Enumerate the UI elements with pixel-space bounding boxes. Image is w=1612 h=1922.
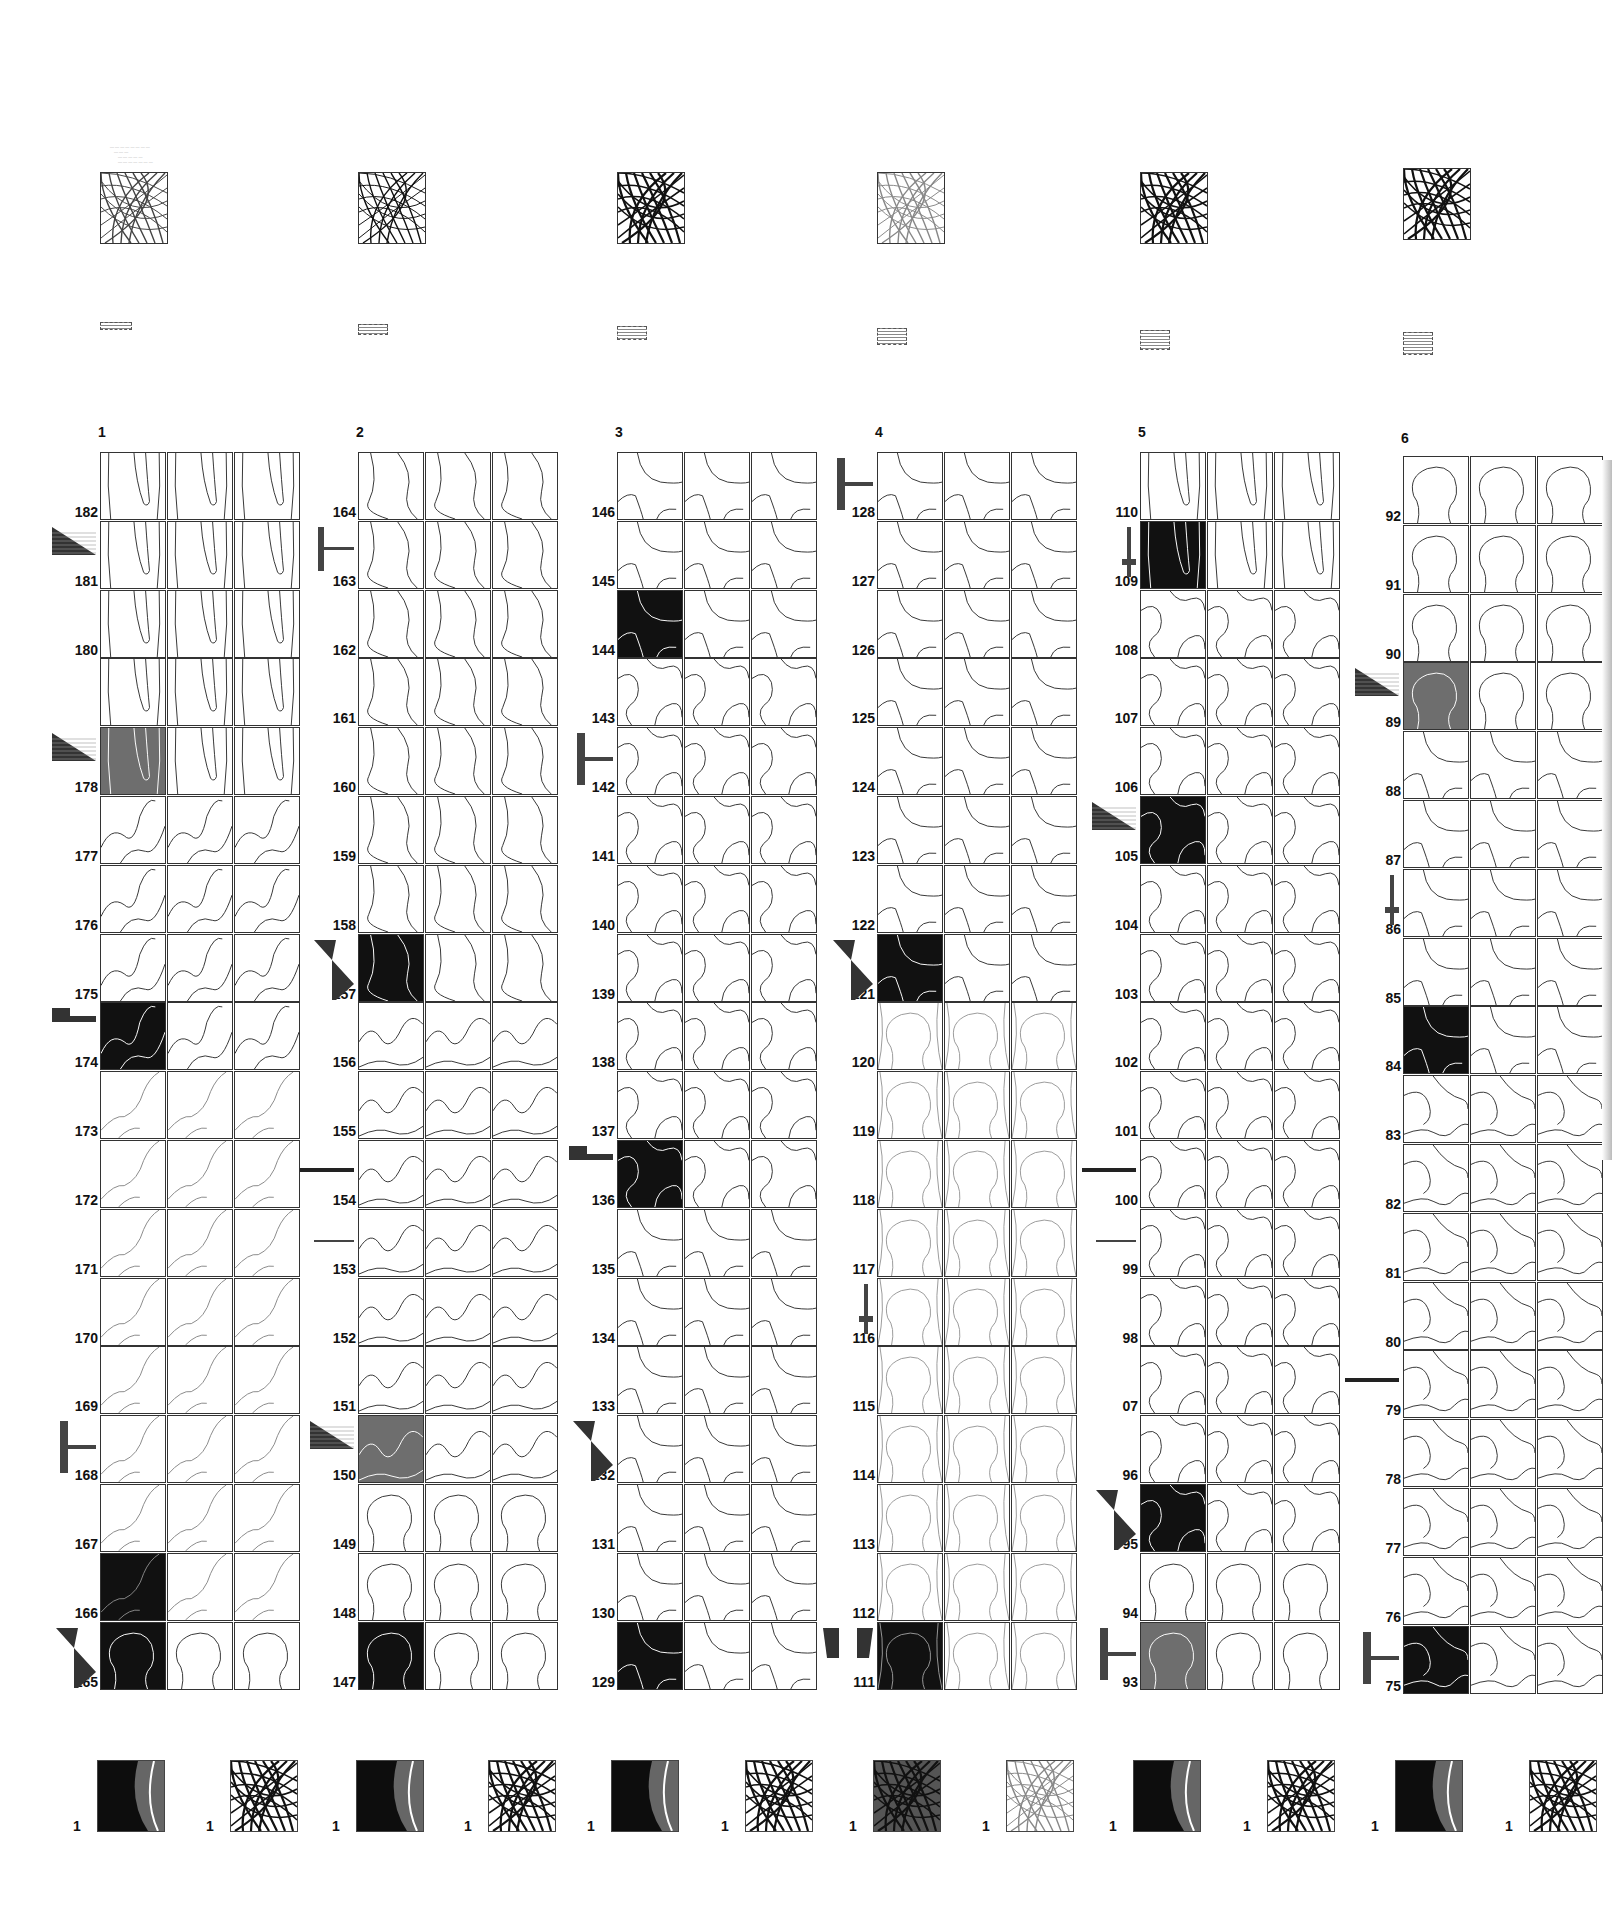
tile xyxy=(877,452,943,520)
tile xyxy=(1537,594,1603,662)
tile xyxy=(358,727,424,795)
tile xyxy=(358,452,424,520)
tile xyxy=(167,658,233,726)
tile xyxy=(425,590,491,658)
tile xyxy=(617,1002,683,1070)
tile xyxy=(1274,452,1340,520)
scale-label: 1 xyxy=(73,1818,81,1834)
tile xyxy=(751,1071,817,1139)
tile xyxy=(1140,1553,1206,1621)
tile xyxy=(1140,727,1206,795)
row-number: 160 xyxy=(312,779,356,795)
tile xyxy=(1207,1209,1273,1277)
tile xyxy=(1537,456,1603,524)
tile xyxy=(1140,452,1206,520)
tile xyxy=(492,727,558,795)
tile xyxy=(1207,452,1273,520)
tee-small-marker-icon xyxy=(318,527,354,571)
row-number: 174 xyxy=(54,1054,98,1070)
tile xyxy=(617,865,683,933)
row-number: 162 xyxy=(312,642,356,658)
tile xyxy=(1011,1553,1077,1621)
tile xyxy=(167,1209,233,1277)
tile xyxy=(1011,1415,1077,1483)
tile xyxy=(167,796,233,864)
scale-label: 1 xyxy=(1505,1818,1513,1834)
tile xyxy=(751,658,817,726)
tile xyxy=(684,1071,750,1139)
scale-label: 1 xyxy=(1109,1818,1117,1834)
tile xyxy=(1274,1002,1340,1070)
tile xyxy=(167,1002,233,1070)
row-number: 82 xyxy=(1357,1196,1401,1212)
tile xyxy=(492,1209,558,1277)
tile xyxy=(234,1484,300,1552)
tile xyxy=(751,934,817,1002)
row-number: 136 xyxy=(571,1192,615,1208)
row-number: 134 xyxy=(571,1330,615,1346)
column-3-overview-thumbnail xyxy=(617,172,685,244)
column-2-overview-thumbnail xyxy=(358,172,426,244)
row-number: 176 xyxy=(54,917,98,933)
tile xyxy=(1011,658,1077,726)
row-number: 182 xyxy=(54,504,98,520)
scale-label: 1 xyxy=(849,1818,857,1834)
tile xyxy=(1274,1071,1340,1139)
row-number: 126 xyxy=(831,642,875,658)
row-number: 166 xyxy=(54,1605,98,1621)
tile xyxy=(358,1278,424,1346)
tile xyxy=(877,934,943,1002)
tile xyxy=(1274,796,1340,864)
row-number: 79 xyxy=(1357,1402,1401,1418)
tile xyxy=(234,1622,300,1690)
tile xyxy=(167,1553,233,1621)
tile xyxy=(1537,869,1603,937)
tile xyxy=(1140,796,1206,864)
row-number: 172 xyxy=(54,1192,98,1208)
bar-thin-marker-icon xyxy=(314,1229,354,1232)
bar-marker-icon xyxy=(1345,1370,1399,1376)
tile xyxy=(358,796,424,864)
tile xyxy=(234,1140,300,1208)
tile xyxy=(1403,1006,1469,1074)
tile xyxy=(1207,865,1273,933)
tee-marker-icon xyxy=(577,733,613,785)
tile xyxy=(1537,662,1603,730)
row-number: 149 xyxy=(312,1536,356,1552)
row-number: 120 xyxy=(831,1054,875,1070)
scale-label: 1 xyxy=(206,1818,214,1834)
tile xyxy=(358,934,424,1002)
tile xyxy=(751,1002,817,1070)
tile xyxy=(100,521,166,589)
tile xyxy=(684,1415,750,1483)
tile xyxy=(877,1346,943,1414)
tile xyxy=(877,865,943,933)
row-number: 181 xyxy=(54,573,98,589)
tile xyxy=(100,1346,166,1414)
tile xyxy=(234,658,300,726)
tile xyxy=(1274,1622,1340,1690)
tile xyxy=(1274,658,1340,726)
column-title: 2 xyxy=(356,424,364,440)
row-number: 105 xyxy=(1094,848,1138,864)
tile xyxy=(1011,865,1077,933)
row-number: 106 xyxy=(1094,779,1138,795)
tile xyxy=(1274,1278,1340,1346)
tile xyxy=(1140,1140,1206,1208)
tile xyxy=(100,1278,166,1346)
tile xyxy=(358,1622,424,1690)
tile xyxy=(492,1622,558,1690)
column-title: 5 xyxy=(1138,424,1146,440)
tile xyxy=(944,1002,1010,1070)
tile xyxy=(1274,934,1340,1002)
tile xyxy=(944,521,1010,589)
ramp-marker-icon xyxy=(52,527,96,555)
row-number: 107 xyxy=(1094,710,1138,726)
scale-label: 1 xyxy=(464,1818,472,1834)
tile xyxy=(877,796,943,864)
tile xyxy=(944,934,1010,1002)
tile xyxy=(425,1209,491,1277)
tile xyxy=(425,1002,491,1070)
tile xyxy=(1140,934,1206,1002)
tile xyxy=(100,1002,166,1070)
